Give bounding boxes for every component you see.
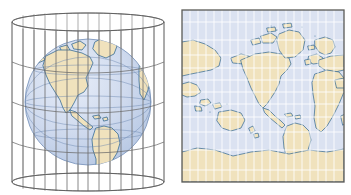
- mercator-world-map: [175, 0, 351, 195]
- projection-figure: Globe inscribed in cylinder Resulting fl…: [0, 0, 351, 195]
- globe-cylinder-illustration: [0, 0, 176, 195]
- panel-mercator-map: [175, 0, 351, 195]
- panel-globe-in-cylinder: [0, 0, 176, 195]
